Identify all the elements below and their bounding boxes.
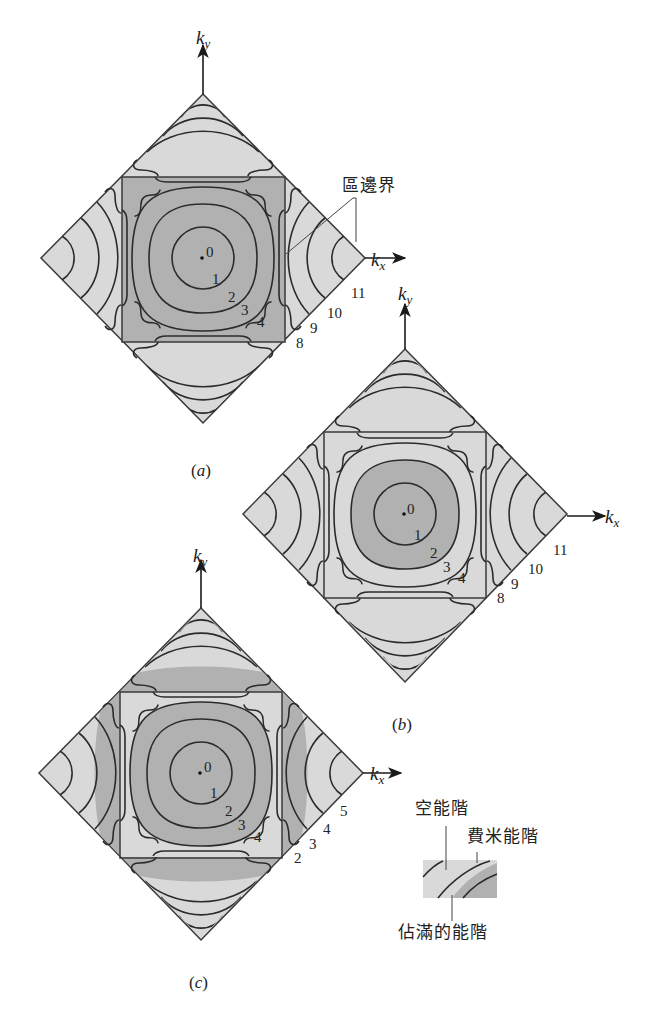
panel-c-label-2: 2 [225,804,233,819]
panel-a-edge-10: 10 [327,306,342,321]
legend-occupied-levels-label: 佔滿的能階 [398,924,488,941]
panel-c-caption: (c) [189,974,208,991]
panel-a-edge-9: 9 [310,321,318,336]
panel-c-ky-label: ky [193,546,207,568]
panel-b-label-4: 4 [458,571,466,586]
panel-a-label-3: 3 [241,303,249,318]
panel-b [243,304,605,682]
panel-a-edge-8: 8 [296,336,304,351]
panel-c-kx-label: kx [370,764,384,786]
panel-a-kx-label: kx [371,250,385,272]
panel-c-edge-5: 5 [340,804,348,819]
panel-a-label-0: 0 [206,245,214,260]
panel-a [41,45,405,423]
panel-b-edge-10: 10 [528,562,543,577]
panel-b-caption: (b) [392,716,412,733]
panel-c-label-4: 4 [254,830,262,845]
panel-a-ky-label: ky [196,28,210,50]
legend-fermi-level-label: 費米能階 [467,828,539,845]
panel-b-ky-label: ky [398,284,412,306]
panel-b-edge-8: 8 [497,591,505,606]
panel-b-edge-11: 11 [553,543,567,558]
legend-empty-levels-label: 空能階 [415,800,469,817]
panel-b-kx-label: kx [605,507,619,529]
panel-a-edge-11: 11 [351,286,365,301]
panel-b-label-0: 0 [407,502,415,517]
panel-c-edge-2: 2 [294,851,302,866]
panel-b-label-3: 3 [443,560,451,575]
panel-c-label-1: 1 [210,786,218,801]
panel-a-label-2: 2 [228,290,236,305]
panel-b-label-2: 2 [430,546,438,561]
panel-a-label-4: 4 [257,315,265,330]
brillouin-zone-figure [0,0,647,1022]
panel-b-label-1: 1 [414,528,422,543]
panel-c-label-3: 3 [238,818,246,833]
panel-c-edge-4: 4 [323,822,331,837]
panel-b-edge-9: 9 [511,577,519,592]
panel-c-label-0: 0 [204,760,212,775]
panel-c-edge-3: 3 [309,837,317,852]
zone-boundary-label: 區邊界 [342,177,396,194]
panel-a-label-1: 1 [212,272,220,287]
panel-a-caption: (a) [191,462,211,479]
